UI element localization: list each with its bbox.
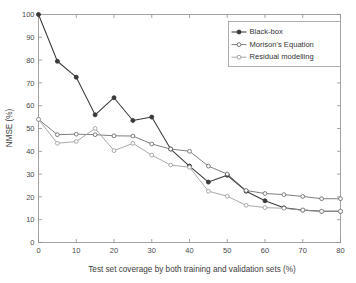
x-axis-title: Test set coverage by both training and v… bbox=[88, 265, 296, 274]
data-point bbox=[169, 147, 173, 151]
data-point bbox=[320, 197, 324, 201]
y-tick-label: 20 bbox=[26, 193, 34, 202]
x-tick-label: 40 bbox=[185, 246, 193, 255]
legend-label: Morison's Equation bbox=[250, 40, 314, 49]
data-point bbox=[37, 117, 41, 121]
data-point bbox=[131, 134, 135, 138]
chart-figure: 0102030405060708090100 01020304050607080… bbox=[0, 0, 356, 283]
x-tick-label: 0 bbox=[36, 246, 40, 255]
data-point bbox=[150, 142, 154, 146]
data-point bbox=[320, 209, 324, 213]
chart-legend: Black-boxMorison's EquationResidual mode… bbox=[229, 22, 341, 67]
y-tick-label: 50 bbox=[26, 124, 34, 133]
data-point bbox=[244, 203, 248, 207]
data-point bbox=[339, 209, 343, 213]
data-point bbox=[74, 75, 78, 79]
x-tick-label: 10 bbox=[72, 246, 80, 255]
data-point bbox=[263, 199, 267, 203]
data-point bbox=[301, 208, 305, 212]
data-point bbox=[188, 149, 192, 153]
data-point bbox=[131, 119, 135, 123]
x-tick-label: 50 bbox=[223, 246, 231, 255]
y-tick-label: 90 bbox=[26, 33, 34, 42]
data-point bbox=[150, 153, 154, 157]
y-tick-label: 30 bbox=[26, 170, 34, 179]
data-point bbox=[74, 132, 78, 136]
series-residual-modelling bbox=[37, 117, 343, 213]
nmse-line-chart: 0102030405060708090100 01020304050607080… bbox=[0, 0, 356, 283]
y-tick-label: 60 bbox=[26, 101, 34, 110]
data-point bbox=[263, 206, 267, 210]
x-tick-label: 70 bbox=[299, 246, 307, 255]
legend-marker-icon bbox=[237, 30, 241, 34]
data-point bbox=[112, 149, 116, 153]
series-line bbox=[39, 119, 341, 198]
y-axis-title: NMSE (%) bbox=[5, 108, 14, 147]
data-point bbox=[225, 172, 229, 176]
data-point bbox=[93, 127, 97, 131]
data-point bbox=[301, 195, 305, 199]
legend-label: Residual modelling bbox=[250, 52, 314, 61]
data-point bbox=[93, 113, 97, 117]
data-point bbox=[55, 133, 59, 137]
x-tick-label: 20 bbox=[110, 246, 118, 255]
y-tick-label: 100 bbox=[22, 10, 35, 19]
data-point bbox=[169, 163, 173, 167]
data-point bbox=[244, 189, 248, 193]
data-point bbox=[206, 180, 210, 184]
data-point bbox=[74, 140, 78, 144]
data-point bbox=[206, 164, 210, 168]
legend-marker-icon bbox=[237, 43, 241, 47]
data-point bbox=[37, 13, 41, 17]
data-point bbox=[131, 141, 135, 145]
data-point bbox=[206, 189, 210, 193]
data-point bbox=[93, 133, 97, 137]
y-tick-label: 0 bbox=[30, 238, 34, 247]
data-point bbox=[339, 197, 343, 201]
data-point bbox=[188, 165, 192, 169]
y-tick-label: 10 bbox=[26, 215, 34, 224]
legend-marker-icon bbox=[237, 55, 241, 59]
series-morison-s-equation bbox=[37, 117, 343, 200]
data-point bbox=[55, 141, 59, 145]
y-tick-label: 80 bbox=[26, 56, 34, 65]
data-point bbox=[112, 134, 116, 138]
data-point bbox=[55, 59, 59, 63]
data-point bbox=[150, 115, 154, 119]
data-point bbox=[282, 206, 286, 210]
x-tick-label: 60 bbox=[261, 246, 269, 255]
data-point bbox=[112, 96, 116, 100]
data-point bbox=[282, 193, 286, 197]
x-tick-label: 30 bbox=[148, 246, 156, 255]
x-tick-label: 80 bbox=[336, 246, 344, 255]
data-point bbox=[263, 192, 267, 196]
data-point bbox=[225, 194, 229, 198]
y-tick-label: 40 bbox=[26, 147, 34, 156]
legend-label: Black-box bbox=[250, 27, 284, 36]
y-tick-label: 70 bbox=[26, 79, 34, 88]
